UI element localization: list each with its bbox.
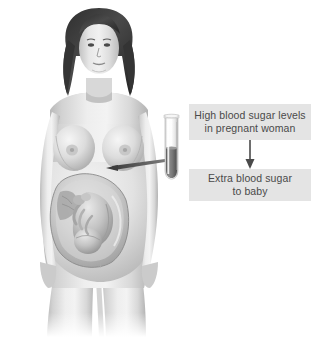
eye-left bbox=[88, 43, 94, 46]
woman-figure bbox=[20, 8, 180, 337]
callout-high-blood-sugar: High blood sugar levels in pregnant woma… bbox=[189, 104, 311, 140]
callout-bottom-text: Extra blood sugar to baby bbox=[208, 172, 292, 198]
callout-extra-blood-sugar-to-baby: Extra blood sugar to baby bbox=[189, 169, 311, 201]
callout-top-text: High blood sugar levels in pregnant woma… bbox=[194, 109, 305, 135]
eye-right bbox=[104, 43, 110, 46]
blood-test-tube bbox=[164, 114, 179, 179]
downward-arrow-icon bbox=[236, 140, 264, 170]
